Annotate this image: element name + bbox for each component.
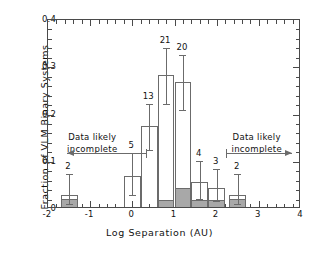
annotation-right-incomplete: Data likelyincomplete [231,131,281,155]
x-tick-label: 1 [171,209,177,219]
bar-count-label: 2 [234,161,239,171]
x-tick [267,204,268,208]
y-tick-right [296,124,300,125]
annotation-line-1: Data likely [231,131,281,143]
x-tick-label: 4 [297,209,303,219]
annotation-arrow-tail [226,149,227,158]
error-bar-cap [234,174,241,175]
y-tick-right [296,200,300,201]
error-bar-cap [66,204,73,205]
error-bar-cap [213,169,220,170]
y-tick [48,86,52,87]
x-tick-top [141,20,142,24]
x-tick-top [259,20,260,26]
y-tick-right [296,190,300,191]
y-tick-right [296,133,300,134]
x-tick [56,204,57,208]
y-tick [48,115,54,116]
y-tick [48,124,52,125]
plot-area: Data likelyincompleteData likelyincomple… [47,19,300,208]
x-tick-top [276,20,277,24]
x-tick [82,204,83,208]
error-bar-line [238,174,239,205]
error-bar-cap [213,201,220,202]
annotation-arrow-tail [146,149,147,158]
y-tick-right [296,48,300,49]
x-tick [107,204,108,208]
x-tick-top [82,20,83,24]
bar-count-label: 3 [213,156,218,166]
annotation-arrow-head [67,150,74,156]
error-bar-cap [179,55,186,56]
y-tick-right [296,29,300,30]
y-tick-right [296,39,300,40]
x-tick [259,201,260,207]
histogram-bar-shaded [175,188,192,207]
x-tick-top [90,20,91,26]
error-bar-cap [234,204,241,205]
annotation-line-1: Data likely [67,131,117,143]
y-tick-right [293,115,299,116]
y-tick-right [296,58,300,59]
error-bar-line [132,153,133,195]
x-tick-top [175,20,176,26]
y-tick [48,39,52,40]
error-bar-line [200,161,201,199]
bar-count-label: 21 [160,35,171,45]
y-tick [48,67,54,68]
x-tick-top [124,20,125,24]
y-tick [48,29,52,30]
y-tick [48,77,52,78]
error-bar-cap [146,104,153,105]
error-bar-cap [196,161,203,162]
error-bar-cap [179,110,186,111]
x-tick-top [65,20,66,24]
x-tick-top [132,20,133,26]
bar-count-label: 2 [65,161,70,171]
x-tick [284,204,285,208]
error-bar-cap [66,174,73,175]
y-axis-title-wrapper: Fraction of VLM Binary Systems [14,0,28,253]
x-tick [115,204,116,208]
error-bar-cap [196,199,203,200]
x-tick-label: 2 [213,209,219,219]
y-tick-right [293,162,299,163]
x-tick-top [200,20,201,24]
x-tick-top [115,20,116,24]
x-tick-label: 0 [129,209,135,219]
bar-count-label: 5 [129,140,134,150]
annotation-arrow-head [285,150,292,156]
error-bar-line [166,48,167,104]
y-tick-right [296,171,300,172]
error-bar-cap [163,48,170,49]
y-tick [48,133,52,134]
y-tick [48,58,52,59]
x-tick-top [73,20,74,24]
y-tick-right [293,67,299,68]
error-bar-line [69,174,70,205]
y-tick [48,171,52,172]
x-tick-top [99,20,100,24]
figure: Fraction of VLM Binary Systems Log Separ… [0,0,319,253]
error-bar-line [217,169,218,202]
x-tick-top [166,20,167,24]
y-tick [48,190,52,191]
x-tick-top [183,20,184,24]
x-tick-top [250,20,251,24]
x-tick-top [293,20,294,24]
bar-count-label: 4 [196,148,201,158]
x-tick-top [107,20,108,24]
y-tick [48,105,52,106]
y-tick [48,152,52,153]
y-tick-right [296,77,300,78]
error-bar-line [183,55,184,109]
x-tick-label: 3 [255,209,261,219]
y-tick [48,48,52,49]
y-tick-right [296,143,300,144]
x-tick-top [225,20,226,24]
x-tick-top [284,20,285,24]
y-tick-right [296,105,300,106]
x-tick-top [149,20,150,24]
x-tick [293,204,294,208]
x-tick-top [242,20,243,24]
